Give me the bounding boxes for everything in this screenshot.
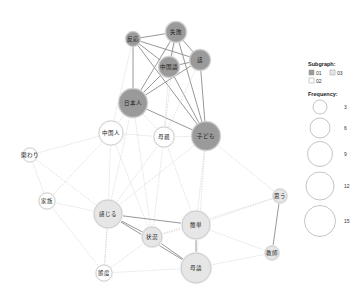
node-omou[interactable]: 思う <box>272 188 288 204</box>
node-label: 状況 <box>146 233 158 241</box>
node-hanashi[interactable]: 話 <box>189 49 211 71</box>
nodes-layer: 反応失敗中国語話日本人子ども中国人母親関わり家族感じる状況簡単思う教師態度母語 <box>21 21 288 284</box>
edge-chuugokujin-kazoku <box>47 133 111 201</box>
co-occurrence-network: 反応失敗中国語話日本人子ども中国人母親関わり家族感じる状況簡単思う教師態度母語 … <box>0 0 364 300</box>
subgraph-swatch-02 <box>309 78 314 83</box>
frequency-circle-3 <box>313 100 327 114</box>
subgraph-legend-title: Subgraph: <box>308 61 336 67</box>
node-chuugokujin[interactable]: 中国人 <box>98 120 124 146</box>
node-taido[interactable]: 態度 <box>95 264 113 282</box>
node-label: 話 <box>197 56 203 64</box>
frequency-label-15: 15 <box>344 218 350 224</box>
node-label: 態度 <box>98 269 110 277</box>
node-kodomo[interactable]: 子ども <box>191 121 221 151</box>
node-chuugokugo[interactable]: 中国語 <box>158 56 180 78</box>
node-label: 子ども <box>197 132 215 139</box>
frequency-label-3: 3 <box>344 104 347 110</box>
node-label: 母親 <box>158 133 170 141</box>
subgraph-swatch-01 <box>309 70 314 75</box>
subgraph-swatch-03 <box>330 70 335 75</box>
node-nihonjin[interactable]: 日本人 <box>118 88 148 118</box>
subgraph-label-03: 03 <box>337 70 343 76</box>
frequency-circle-12 <box>306 172 334 200</box>
edge-nihonjin-joukyou <box>133 103 152 237</box>
node-label: 中国人 <box>102 129 120 137</box>
node-label: 反応 <box>127 35 139 43</box>
edge-kodomo-bogo <box>196 136 206 268</box>
node-bogo[interactable]: 母語 <box>180 252 212 284</box>
frequency-label-6: 6 <box>344 125 347 131</box>
frequency-legend-title: Frequency: <box>308 91 338 97</box>
edge-omou-kyoushi <box>272 196 280 253</box>
node-shippai[interactable]: 失敗 <box>165 21 187 43</box>
node-kantan[interactable]: 簡単 <box>181 210 211 240</box>
node-kyoushi[interactable]: 教師 <box>264 245 280 261</box>
legend: Subgraph: 010302 Frequency: 3691215 <box>305 61 350 237</box>
frequency-legend-items: 3691215 <box>305 100 350 237</box>
node-label: 思う <box>274 193 286 200</box>
edge-omou-joukyou <box>152 196 280 237</box>
subgraph-label-01: 01 <box>316 70 322 76</box>
node-hannou[interactable]: 反応 <box>125 31 141 47</box>
frequency-label-9: 9 <box>344 151 347 157</box>
node-hahaoya[interactable]: 母親 <box>153 126 175 148</box>
frequency-circle-9 <box>308 142 333 167</box>
node-label: 中国語 <box>160 63 178 71</box>
node-label: 簡単 <box>190 221 202 229</box>
frequency-circle-15 <box>305 206 336 237</box>
node-label: 感じる <box>99 210 117 217</box>
node-label: 失敗 <box>170 28 182 36</box>
node-label: 母語 <box>190 264 202 272</box>
node-label: 関わり <box>21 152 39 159</box>
subgraph-label-02: 02 <box>316 78 322 84</box>
node-kanjiru[interactable]: 感じる <box>93 199 123 229</box>
frequency-circle-6 <box>310 118 330 138</box>
edge-hahaoya-joukyou <box>152 137 164 237</box>
node-kakawari[interactable]: 関わり <box>21 147 39 163</box>
node-label: 教師 <box>266 249 278 257</box>
node-label: 家族 <box>41 197 53 205</box>
subgraph-legend-items: 010302 <box>309 70 343 84</box>
node-label: 日本人 <box>124 99 142 107</box>
node-joukyou[interactable]: 状況 <box>141 226 163 248</box>
frequency-label-12: 12 <box>344 183 350 189</box>
node-kazoku[interactable]: 家族 <box>38 192 56 210</box>
